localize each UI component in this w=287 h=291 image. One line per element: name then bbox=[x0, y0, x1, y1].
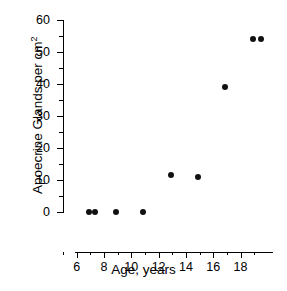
y-axis-title-superscript: 2 bbox=[29, 37, 39, 42]
y-tick-label: 60 bbox=[36, 13, 50, 27]
x-axis-title: Age, years bbox=[0, 262, 287, 277]
x-tick-major bbox=[241, 252, 242, 258]
x-tick-major bbox=[186, 252, 187, 258]
x-tick-major bbox=[131, 252, 132, 258]
data-point bbox=[222, 84, 228, 90]
y-tick-major: 20 bbox=[57, 148, 63, 149]
data-point bbox=[258, 36, 264, 42]
x-tick-minor bbox=[172, 252, 173, 255]
y-tick-label: 0 bbox=[43, 205, 50, 219]
x-tick-minor bbox=[118, 252, 119, 255]
y-tick-major: 50 bbox=[57, 52, 63, 53]
y-tick-label: 50 bbox=[36, 45, 50, 59]
data-point bbox=[113, 209, 119, 215]
y-axis-line bbox=[63, 20, 64, 213]
y-tick-minor bbox=[59, 164, 63, 165]
y-tick-minor bbox=[59, 68, 63, 69]
x-tick-minor bbox=[90, 252, 91, 255]
y-tick-label: 40 bbox=[36, 77, 50, 91]
y-tick-major: 0 bbox=[57, 212, 63, 213]
data-point bbox=[86, 209, 92, 215]
y-tick-major: 40 bbox=[57, 84, 63, 85]
x-tick-minor bbox=[200, 252, 201, 255]
x-tick-minor bbox=[227, 252, 228, 255]
y-tick-label: 30 bbox=[36, 109, 50, 123]
y-tick-minor bbox=[59, 132, 63, 133]
x-tick-minor bbox=[63, 252, 64, 255]
x-tick-major bbox=[104, 252, 105, 258]
y-tick-minor bbox=[59, 196, 63, 197]
data-point bbox=[195, 174, 201, 180]
y-tick-major: 60 bbox=[57, 20, 63, 21]
x-axis: 681012141618 bbox=[75, 252, 275, 253]
x-tick-major bbox=[159, 252, 160, 258]
scatter-plot-figure: Apoecrine Glands per cm2 0102030405060 6… bbox=[0, 0, 287, 291]
plot-area: 0102030405060 681012141618 bbox=[63, 20, 273, 212]
data-point bbox=[168, 172, 174, 178]
y-tick-label: 20 bbox=[36, 141, 50, 155]
x-tick-minor bbox=[254, 252, 255, 255]
y-tick-minor bbox=[59, 36, 63, 37]
x-tick-minor bbox=[145, 252, 146, 255]
data-point bbox=[250, 36, 256, 42]
data-point bbox=[92, 209, 98, 215]
y-tick-label: 10 bbox=[36, 173, 50, 187]
data-point bbox=[140, 209, 146, 215]
x-tick-major bbox=[213, 252, 214, 258]
y-tick-minor bbox=[59, 100, 63, 101]
x-tick-major bbox=[77, 252, 78, 258]
y-tick-major: 10 bbox=[57, 180, 63, 181]
y-tick-major: 30 bbox=[57, 116, 63, 117]
y-axis-title-container: Apoecrine Glands per cm2 bbox=[0, 0, 34, 235]
